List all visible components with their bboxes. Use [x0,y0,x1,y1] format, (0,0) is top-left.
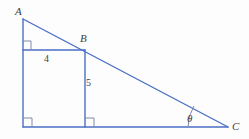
angle-label-theta: θ [187,113,192,124]
geometry-svg [0,0,249,139]
vertex-label-A: A [15,6,22,17]
vertex-label-B: B [80,33,87,44]
segment-hypotenuse-AC [23,19,228,127]
geometry-diagram-canvas: A B C 4 5 θ [0,0,249,139]
vertex-label-C: C [232,121,239,132]
right-angle-at-A-corner-icon [23,41,31,50]
right-angle-bottom-left-icon [23,118,32,127]
right-angle-at-B-foot-icon [85,118,94,127]
measure-label-5: 5 [86,78,91,88]
measure-label-4: 4 [44,54,49,64]
